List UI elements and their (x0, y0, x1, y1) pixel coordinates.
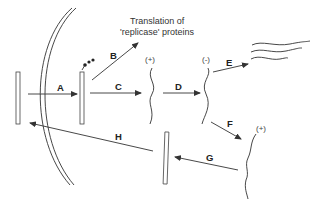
outer-rna-rod (16, 72, 20, 124)
label-e: E (226, 57, 232, 68)
label-d: D (175, 81, 182, 92)
assembled-rna-rod (163, 132, 169, 184)
label-b: B (110, 50, 117, 61)
plus-strand-rna-copy (245, 134, 256, 199)
label-f: F (227, 118, 233, 129)
label-a: A (57, 82, 64, 93)
label-h: H (115, 131, 122, 142)
minus-strand-rna (202, 68, 209, 124)
label-c: C (115, 81, 122, 92)
cell-membrane (40, 8, 76, 185)
plus-sign-1: (+) (145, 55, 155, 64)
uncoated-rod (80, 72, 84, 124)
plus-strand-rna (150, 68, 154, 124)
translation-label-line1: Translation of (130, 16, 185, 26)
arrow-f (211, 122, 241, 139)
progeny-rna-strands (251, 41, 310, 59)
translation-label-line2: 'replicase' proteins (120, 27, 194, 37)
plus-sign-2: (+) (256, 124, 266, 133)
ribosome-icon (82, 58, 95, 70)
minus-sign: (-) (202, 55, 210, 64)
arrow-b (92, 43, 138, 80)
viral-replication-diagram: A B Translation of 'replicase' proteins … (0, 0, 323, 207)
label-g: G (206, 152, 213, 163)
